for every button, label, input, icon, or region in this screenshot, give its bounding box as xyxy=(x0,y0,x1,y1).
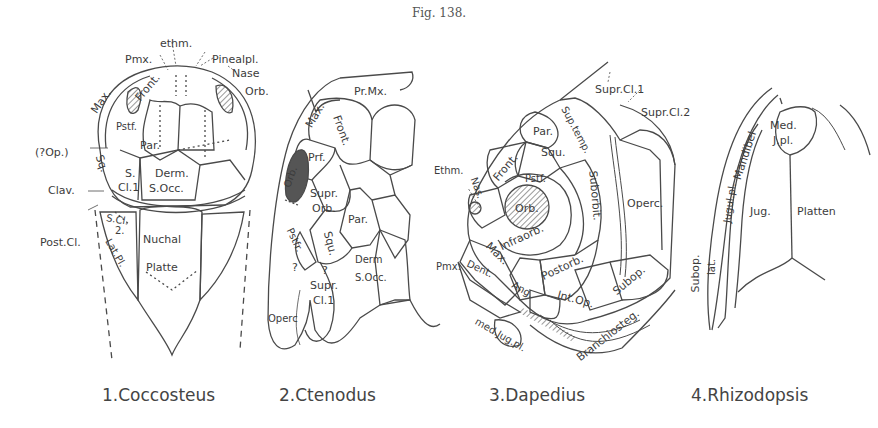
label-par: Par. xyxy=(533,126,553,137)
ctenodus-drawing xyxy=(268,72,440,349)
label-med: Med. xyxy=(770,120,797,131)
label-pstf: Pstf. xyxy=(525,174,546,184)
label-pmx: Pmx. xyxy=(125,54,152,65)
label-squ: Squ. xyxy=(541,147,565,158)
caption-rhizodopsis: 4.Rhizodopsis xyxy=(691,385,808,405)
label-ethm: Ethm. xyxy=(434,166,464,176)
label-subop: Subop. xyxy=(690,254,701,292)
label-suprcl2: Supr.Cl.2 xyxy=(641,107,690,118)
label-platte: Platte xyxy=(146,262,178,273)
label-pstf: Pstf. xyxy=(116,122,137,132)
label-operc: Operc xyxy=(268,314,298,324)
label-suprcl1: Supr.Cl.1 xyxy=(595,84,644,95)
label-supr2: Supr. xyxy=(310,280,338,291)
label-socc: S.Occ. xyxy=(149,183,184,194)
label-scl-2: 2. xyxy=(115,226,125,236)
label-orb2: Orb. xyxy=(312,203,336,214)
label-prf: Prf. xyxy=(308,152,326,163)
label-supr: Supr. xyxy=(310,188,338,199)
caption-dapedius: 3.Dapedius xyxy=(489,385,585,405)
label-postcl: Post.Cl. xyxy=(40,237,81,248)
coccosteus-drawing xyxy=(88,42,255,360)
caption-ctenodus: 2.Ctenodus xyxy=(279,385,376,405)
label-cl1: Cl.1 xyxy=(313,295,334,306)
label-question-2: ? xyxy=(322,265,328,276)
label-par: Par. xyxy=(140,140,160,151)
label-jug: Jug. xyxy=(750,206,771,217)
label-socc: S.Occ. xyxy=(355,273,387,283)
label-derm: Derm xyxy=(355,255,383,265)
label-clav: Clav. xyxy=(48,185,75,196)
label-par: Par. xyxy=(348,214,368,225)
label-lat: lat. xyxy=(707,259,717,275)
label-question-1: ? xyxy=(292,262,298,273)
label-operc: Operc. xyxy=(627,198,663,209)
label-derm: Derm. xyxy=(155,168,189,179)
label-nase: Nase xyxy=(232,68,259,79)
label-prmx: Pr.Mx. xyxy=(354,86,387,97)
label-op: (?Op.) xyxy=(35,147,69,158)
label-orb: Orb. xyxy=(515,203,539,214)
label-cl1: Cl.1 xyxy=(118,182,139,193)
label-s: S. xyxy=(125,168,135,179)
caption-coccosteus: 1.Coccosteus xyxy=(102,385,215,405)
label-ethm: ethm. xyxy=(160,38,192,49)
label-pinealpl: Pinealpl. xyxy=(212,54,259,65)
label-orb: Orb. xyxy=(245,86,269,97)
label-nuchal: Nuchal xyxy=(143,234,181,245)
label-pmx: Pmx. xyxy=(436,262,461,272)
label-platten: Platten xyxy=(797,206,836,217)
label-jpl: J.pl. xyxy=(773,135,793,146)
